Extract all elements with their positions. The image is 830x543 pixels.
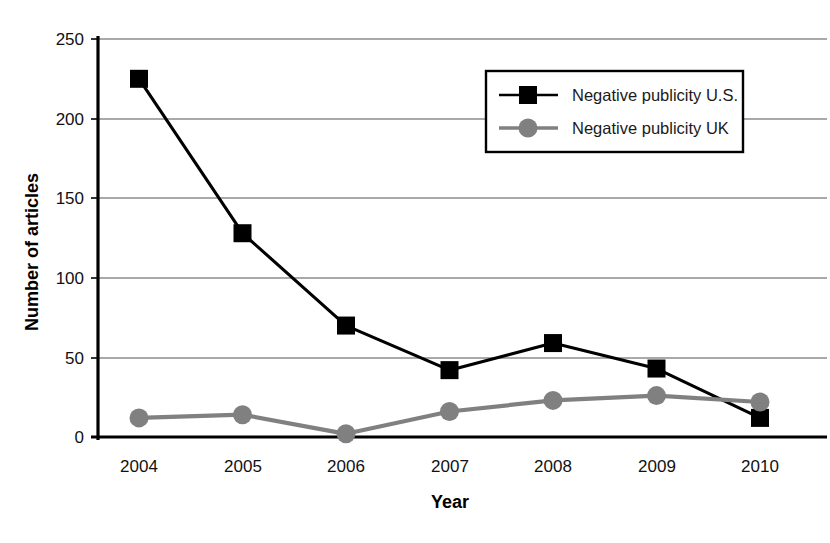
x-tick-label-2006: 2006	[327, 457, 365, 476]
y-axis-title: Number of articles	[22, 173, 42, 331]
data-point-square	[751, 409, 769, 427]
data-point-square	[544, 334, 562, 352]
circle-marker-icon	[519, 119, 538, 138]
legend-label-uk: Negative publicity UK	[572, 119, 729, 137]
data-point-circle	[233, 405, 252, 424]
data-point-square	[441, 361, 459, 379]
data-point-circle	[130, 408, 149, 427]
y-tick-label-0: 0	[75, 428, 84, 447]
legend-box	[486, 71, 743, 152]
y-tick-label-250: 250	[56, 30, 84, 49]
legend-label-us: Negative publicity U.S.	[572, 86, 738, 104]
y-tick-label-50: 50	[65, 349, 84, 368]
legend-entry-us[interactable]: Negative publicity U.S.	[499, 86, 738, 104]
line-chart: 250 200 150 100 50 0 2004 2005 2006 2007…	[0, 0, 830, 543]
x-axis-title: Year	[431, 492, 469, 512]
x-tick-label-2007: 2007	[431, 457, 469, 476]
data-point-square	[337, 317, 355, 335]
data-point-circle	[337, 424, 356, 443]
data-point-circle	[751, 392, 770, 411]
x-tick-label-2005: 2005	[224, 457, 262, 476]
x-tick-label-2010: 2010	[741, 457, 779, 476]
x-tick-label-2004: 2004	[120, 457, 158, 476]
data-point-circle	[440, 402, 459, 421]
data-point-square	[130, 70, 148, 88]
y-tick-label-100: 100	[56, 269, 84, 288]
data-point-circle	[647, 386, 666, 405]
data-point-square	[234, 224, 252, 242]
y-tick-label-150: 150	[56, 189, 84, 208]
x-tick-label-2008: 2008	[534, 457, 572, 476]
x-tick-label-2009: 2009	[638, 457, 676, 476]
data-point-circle	[544, 391, 563, 410]
y-tick-label-200: 200	[56, 110, 84, 129]
legend: Negative publicity U.S. Negative publici…	[486, 71, 743, 152]
square-marker-icon	[519, 86, 537, 104]
chart-canvas: 250 200 150 100 50 0 2004 2005 2006 2007…	[0, 0, 830, 543]
data-point-square	[648, 360, 666, 378]
legend-entry-uk[interactable]: Negative publicity UK	[499, 119, 729, 138]
